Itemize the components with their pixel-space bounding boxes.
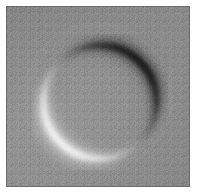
image-frame (6, 6, 190, 187)
image-canvas (0, 0, 203, 195)
noise-overlay-secondary (6, 6, 190, 187)
